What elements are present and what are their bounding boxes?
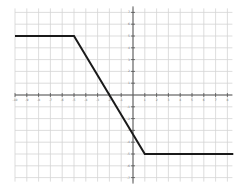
x-tick-label: -8 [37,98,40,102]
y-tick-label: 1 [128,81,130,85]
y-tick-label: -7 [127,176,130,180]
y-tick-label: 5 [128,34,130,38]
x-tick-label: -6 [61,98,64,102]
y-tick-label: -6 [127,164,130,168]
x-tick-label: -5 [73,98,76,102]
x-tick-label: 2 [156,98,158,102]
x-tick-label: 6 [203,98,205,102]
x-tick-label: 3 [167,98,169,102]
y-tick-label: 6 [128,22,130,26]
function-graph: -10-9-8-7-6-5-4-3-2-112345678-7-6-5-4-3-… [0,0,252,185]
y-tick-label: 4 [128,46,130,50]
x-tick-label: 8 [226,98,228,102]
y-tick-label: -2 [127,117,130,121]
x-tick-label: -1 [120,98,123,102]
x-tick-label: -9 [25,98,28,102]
x-tick-label: 1 [144,98,146,102]
y-tick-label: -5 [127,152,130,156]
x-tick-label: 7 [215,98,217,102]
y-tick-label: -4 [127,140,130,144]
x-tick-label: -3 [96,98,99,102]
y-tick-label: 7 [128,10,130,14]
x-tick-label: -7 [49,98,52,102]
y-tick-label: 3 [128,58,130,62]
y-tick-label: -1 [127,105,130,109]
x-tick-label: 5 [191,98,193,102]
y-tick-label: 2 [128,69,130,73]
x-tick-label: -4 [84,98,87,102]
x-tick-label: 4 [179,98,181,102]
x-tick-label: -10 [13,98,18,102]
